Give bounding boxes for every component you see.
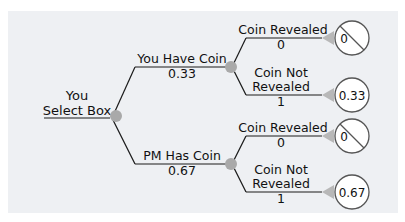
svg-text:Revealed: Revealed xyxy=(252,176,310,191)
svg-text:0: 0 xyxy=(277,135,285,150)
svg-text:0.67: 0.67 xyxy=(339,186,366,200)
chance-node-upper[interactable] xyxy=(225,61,237,73)
payoff-upper-not-revealed[interactable]: 0.33 xyxy=(335,78,369,112)
svg-text:Coin Revealed: Coin Revealed xyxy=(238,22,327,37)
branch-pm-has-coin[interactable]: PM Has Coin 0.67 xyxy=(143,148,221,178)
root-label: You Select Box xyxy=(43,88,112,118)
payoff-upper-revealed[interactable]: 0 xyxy=(335,21,369,55)
svg-text:0.67: 0.67 xyxy=(168,163,196,178)
svg-text:1: 1 xyxy=(277,94,285,109)
svg-text:PM Has Coin: PM Has Coin xyxy=(143,148,221,163)
terminal-triangle-icon xyxy=(322,88,334,102)
branch-you-have-coin[interactable]: You Have Coin 0.33 xyxy=(136,51,226,81)
decision-tree: You Select Box You Have Coin 0.33 PM Has… xyxy=(0,0,405,222)
outcome-lower-coin-revealed[interactable]: Coin Revealed 0 xyxy=(238,120,327,150)
svg-text:1: 1 xyxy=(277,191,285,206)
svg-text:0.33: 0.33 xyxy=(339,89,366,103)
svg-text:0: 0 xyxy=(277,37,285,52)
svg-text:Coin Revealed: Coin Revealed xyxy=(238,120,327,135)
outcome-lower-coin-not-revealed[interactable]: Coin Not Revealed 1 xyxy=(252,162,310,206)
svg-text:Coin Not: Coin Not xyxy=(254,65,308,80)
payoff-lower-not-revealed[interactable]: 0.67 xyxy=(335,175,369,209)
outcome-upper-coin-revealed[interactable]: Coin Revealed 0 xyxy=(238,22,327,52)
svg-text:0.33: 0.33 xyxy=(168,66,196,81)
root-node[interactable] xyxy=(110,110,122,122)
svg-text:Select Box: Select Box xyxy=(43,103,112,118)
payoff-lower-revealed[interactable]: 0 xyxy=(335,119,369,153)
chance-node-lower[interactable] xyxy=(225,158,237,170)
outcome-upper-coin-not-revealed[interactable]: Coin Not Revealed 1 xyxy=(252,65,310,109)
svg-text:You: You xyxy=(65,88,88,103)
svg-text:0: 0 xyxy=(340,130,348,144)
terminal-triangle-icon xyxy=(322,185,334,199)
svg-text:You Have Coin: You Have Coin xyxy=(136,51,226,66)
svg-text:Revealed: Revealed xyxy=(252,79,310,94)
svg-text:Coin Not: Coin Not xyxy=(254,162,308,177)
svg-text:0: 0 xyxy=(340,32,348,46)
